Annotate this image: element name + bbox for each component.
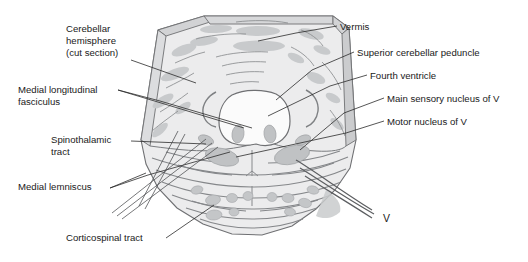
label-line: fasciculus — [18, 96, 60, 107]
label-line: Main sensory nucleus of V — [387, 93, 500, 104]
top-cut-edge — [204, 16, 333, 24]
label-line: Medial longitudinal — [18, 84, 97, 95]
label-line: tract — [51, 146, 70, 157]
label-medial-longitudinal-fasciculus: Medial longitudinal fasciculus — [18, 84, 97, 107]
label-cerebellar-hemisphere: Cerebellar hemisphere (cut section) — [66, 23, 118, 58]
label-main-sensory-nucleus-of-v: Main sensory nucleus of V — [387, 93, 500, 104]
label-line: Motor nucleus of V — [387, 116, 468, 127]
label-vermis: Vermis — [340, 21, 370, 32]
label-motor-nucleus-of-v: Motor nucleus of V — [387, 116, 468, 127]
brainstem-section — [141, 16, 356, 235]
label-line: Medial lemniscus — [18, 181, 92, 192]
label-line: Fourth ventricle — [370, 70, 436, 81]
leader-medial-lemniscus-b — [110, 173, 146, 188]
label-medial-lemniscus: Medial lemniscus — [18, 181, 92, 192]
anatomy-figure: Cerebellar hemisphere (cut section) Medi… — [0, 0, 528, 262]
pons-cross-section-svg: Cerebellar hemisphere (cut section) Medi… — [0, 0, 528, 262]
label-corticospinal-tract: Corticospinal tract — [66, 232, 143, 243]
label-line: Superior cerebellar peduncle — [357, 47, 480, 58]
label-line: hemisphere — [66, 35, 116, 46]
label-spinothalamic-tract: Spinothalamic tract — [51, 134, 111, 157]
label-line: Cerebellar — [66, 23, 111, 34]
label-line: Spinothalamic — [51, 134, 111, 145]
label-trigeminal-nerve-v: V — [383, 212, 390, 224]
label-line: (cut section) — [66, 47, 118, 58]
fourth-ventricle — [219, 90, 290, 145]
label-line: Vermis — [340, 21, 370, 32]
label-superior-cerebellar-peduncle: Superior cerebellar peduncle — [357, 47, 480, 58]
label-line: Corticospinal tract — [66, 232, 143, 243]
label-fourth-ventricle: Fourth ventricle — [370, 70, 436, 81]
